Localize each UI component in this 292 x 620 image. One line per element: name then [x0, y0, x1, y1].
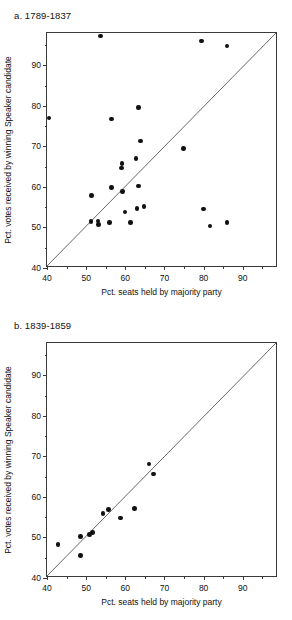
panel-b-x-tick	[86, 576, 87, 580]
panel-b-y-tick-label: 40	[32, 573, 41, 583]
data-point	[119, 166, 124, 171]
panel-a-x-tick-label: 90	[238, 273, 247, 283]
panel-a-y-tick-minor	[45, 45, 48, 46]
data-point	[106, 507, 111, 512]
panel-b-x-tick	[164, 576, 165, 580]
panel-a-y-tick-minor	[45, 248, 48, 249]
panel-a-y-tick-label: 80	[32, 101, 41, 111]
panel-b-reference-line	[47, 343, 276, 576]
data-point	[96, 222, 101, 227]
panel-b-y-tick-label: 70	[32, 451, 41, 461]
data-point	[151, 472, 156, 477]
panel-b-y-tick-minor	[45, 558, 48, 559]
panel-a-y-tick	[43, 65, 47, 66]
panel-b-plot-inner	[47, 343, 276, 576]
panel-a-reference-line	[47, 33, 276, 266]
panel-a-y-tick-minor	[45, 207, 48, 208]
panel-b-x-tick-minor	[67, 576, 68, 579]
figure-scatter-panels: a. 1789-1837 Pct. votes received by winn…	[0, 0, 292, 620]
panel-a-x-tick-minor	[145, 266, 146, 269]
panel-b-x-tick-minor	[145, 576, 146, 579]
data-point	[142, 204, 147, 209]
data-point	[132, 506, 137, 511]
data-point	[109, 117, 114, 122]
panel-a-x-tick-minor	[223, 266, 224, 269]
data-point	[107, 220, 112, 225]
panel-a-x-tick	[204, 266, 205, 270]
data-point	[78, 534, 83, 539]
panel-b-x-tick-minor	[106, 576, 107, 579]
panel-a-y-tick-label: 40	[32, 263, 41, 273]
panel-a-y-axis-title: Pct. votes received by winning Speaker c…	[2, 32, 14, 267]
data-point	[90, 530, 95, 535]
panel-b-y-tick-minor	[45, 477, 48, 478]
panel-b-y-axis-title: Pct. votes received by winning Speaker c…	[2, 342, 14, 577]
panel-b-x-tick-label: 40	[42, 583, 51, 593]
panel-a-y-tick-minor	[45, 126, 48, 127]
panel-b-x-tick-minor	[262, 576, 263, 579]
panel-b-y-tick	[43, 416, 47, 417]
panel-a-x-tick	[47, 266, 48, 270]
panel-b-x-tick	[125, 576, 126, 580]
panel-b-y-tick-label: 50	[32, 532, 41, 542]
panel-a-x-tick-label: 60	[121, 273, 130, 283]
panel-a-x-tick	[243, 266, 244, 270]
panel-b-x-axis-title: Pct. seats held by majority party	[46, 597, 277, 607]
panel-b-y-tick-minor	[45, 517, 48, 518]
panel-b-y-tick	[43, 375, 47, 376]
panel-b-x-tick	[243, 576, 244, 580]
panel-a-y-tick-minor	[45, 86, 48, 87]
panel-a-x-tick-minor	[262, 266, 263, 269]
data-point	[118, 516, 123, 521]
data-point	[101, 511, 106, 516]
panel-a-x-tick	[164, 266, 165, 270]
panel-a-x-tick-label: 80	[199, 273, 208, 283]
panel-a-x-tick-label: 70	[160, 273, 169, 283]
panel-b-y-tick-minor	[45, 436, 48, 437]
panel-b-x-tick-label: 70	[160, 583, 169, 593]
panel-b-title: b. 1839-1859	[14, 320, 71, 331]
panel-b-y-tick	[43, 537, 47, 538]
panel-a-plot-inner	[47, 33, 276, 266]
panel-a-y-tick	[43, 106, 47, 107]
data-point	[120, 189, 125, 194]
panel-a-y-tick-label: 60	[32, 182, 41, 192]
panel-b-y-axis-title-text: Pct. votes received by winning Speaker c…	[3, 366, 13, 554]
panel-a: a. 1789-1837 Pct. votes received by winn…	[0, 0, 292, 310]
panel-b-x-tick	[47, 576, 48, 580]
panel-a-x-tick	[86, 266, 87, 270]
panel-a-y-axis-title-text: Pct. votes received by winning Speaker c…	[3, 56, 13, 244]
panel-b-x-tick-label: 90	[238, 583, 247, 593]
panel-b-y-tick-label: 90	[32, 370, 41, 380]
data-point	[135, 206, 140, 211]
data-point	[136, 105, 141, 110]
data-point	[89, 193, 94, 198]
panel-b-x-tick-minor	[184, 576, 185, 579]
panel-a-y-tick-label: 90	[32, 60, 41, 70]
data-point	[89, 219, 94, 224]
panel-b-x-tick-label: 60	[121, 583, 130, 593]
panel-b-x-tick-label: 50	[81, 583, 90, 593]
panel-b: b. 1839-1859 Pct. votes received by winn…	[0, 310, 292, 620]
data-point	[128, 220, 133, 225]
panel-a-x-tick-minor	[106, 266, 107, 269]
panel-a-x-axis-title: Pct. seats held by majority party	[46, 287, 277, 297]
panel-b-y-tick-label: 60	[32, 492, 41, 502]
panel-a-y-tick	[43, 227, 47, 228]
panel-a-y-tick-label: 70	[32, 141, 41, 151]
data-point	[201, 207, 206, 212]
panel-a-title: a. 1789-1837	[14, 10, 71, 21]
data-point	[181, 146, 186, 151]
panel-b-plot-area: 405060708090405060708090	[46, 342, 277, 577]
panel-a-x-tick-minor	[67, 266, 68, 269]
panel-b-y-tick-minor	[45, 355, 48, 356]
panel-a-x-tick-minor	[184, 266, 185, 269]
panel-a-y-tick-minor	[45, 167, 48, 168]
panel-b-y-tick	[43, 456, 47, 457]
panel-b-x-tick	[204, 576, 205, 580]
panel-a-y-tick	[43, 187, 47, 188]
panel-a-x-tick	[125, 266, 126, 270]
panel-b-y-tick-minor	[45, 396, 48, 397]
panel-b-y-tick-label: 80	[32, 411, 41, 421]
data-point	[78, 553, 83, 558]
